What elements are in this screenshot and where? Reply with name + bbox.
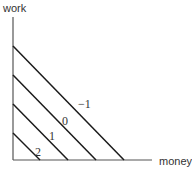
diagram-canvas: work money 2 1 0 −1 [0,0,192,175]
x-axis-label: money [159,155,192,167]
curve-label-1: 1 [49,129,55,143]
curve-label-minus-1: −1 [78,97,91,111]
y-axis-label: work [2,2,27,14]
curve-label-0: 0 [62,114,68,128]
curve-line-minus-1 [13,46,124,160]
curve-label-2: 2 [35,145,41,159]
